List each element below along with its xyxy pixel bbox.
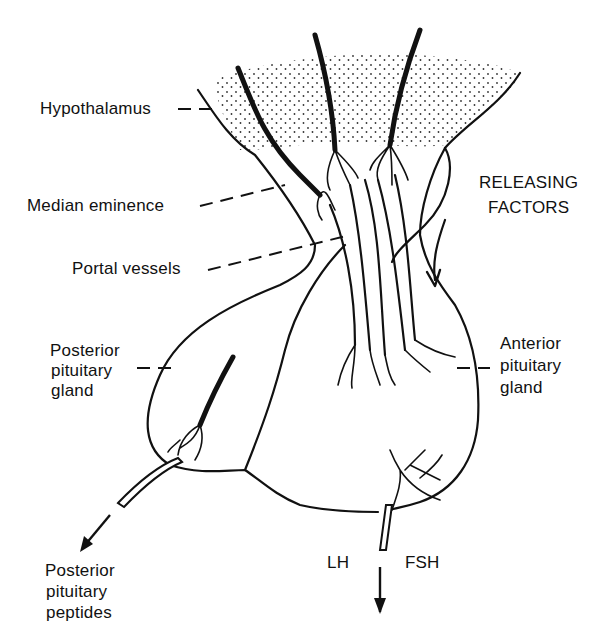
hypothalamus-left-outline [148, 90, 378, 512]
label-anterior-gland-1: Anterior [500, 333, 561, 354]
label-posterior-gland-2: pituitary [51, 360, 112, 381]
label-releasing-factors-2: FACTORS [488, 197, 569, 218]
pituitary-diagram [0, 0, 600, 637]
lh-fsh-arrowhead [374, 598, 386, 614]
label-posterior-gland-3: gland [51, 380, 94, 401]
posterior-output-vessel [118, 458, 182, 507]
label-fsh: FSH [405, 552, 440, 573]
label-releasing-factors-1: RELEASING [479, 172, 578, 193]
label-posterior-peptides-2: pituitary [46, 581, 107, 602]
label-lh: LH [327, 552, 349, 573]
hypothalamus-region [215, 54, 520, 150]
posterior-terminals [168, 425, 202, 460]
label-posterior-peptides-3: peptides [46, 602, 112, 623]
label-portal-vessels: Portal vessels [72, 258, 181, 279]
label-hypothalamus: Hypothalamus [40, 98, 151, 119]
label-median-eminence: Median eminence [27, 195, 164, 216]
label-anterior-gland-2: pituitary [500, 355, 561, 376]
posterior-neuron [200, 357, 233, 425]
label-posterior-gland-1: Posterior [50, 340, 120, 361]
anterior-capillaries [390, 450, 442, 510]
label-anterior-gland-3: gland [500, 377, 543, 398]
label-posterior-peptides-1: Posterior [45, 560, 115, 581]
anterior-output-vessel [380, 505, 392, 550]
lobe-divider [245, 245, 345, 470]
median-eminence-leader [200, 185, 285, 206]
